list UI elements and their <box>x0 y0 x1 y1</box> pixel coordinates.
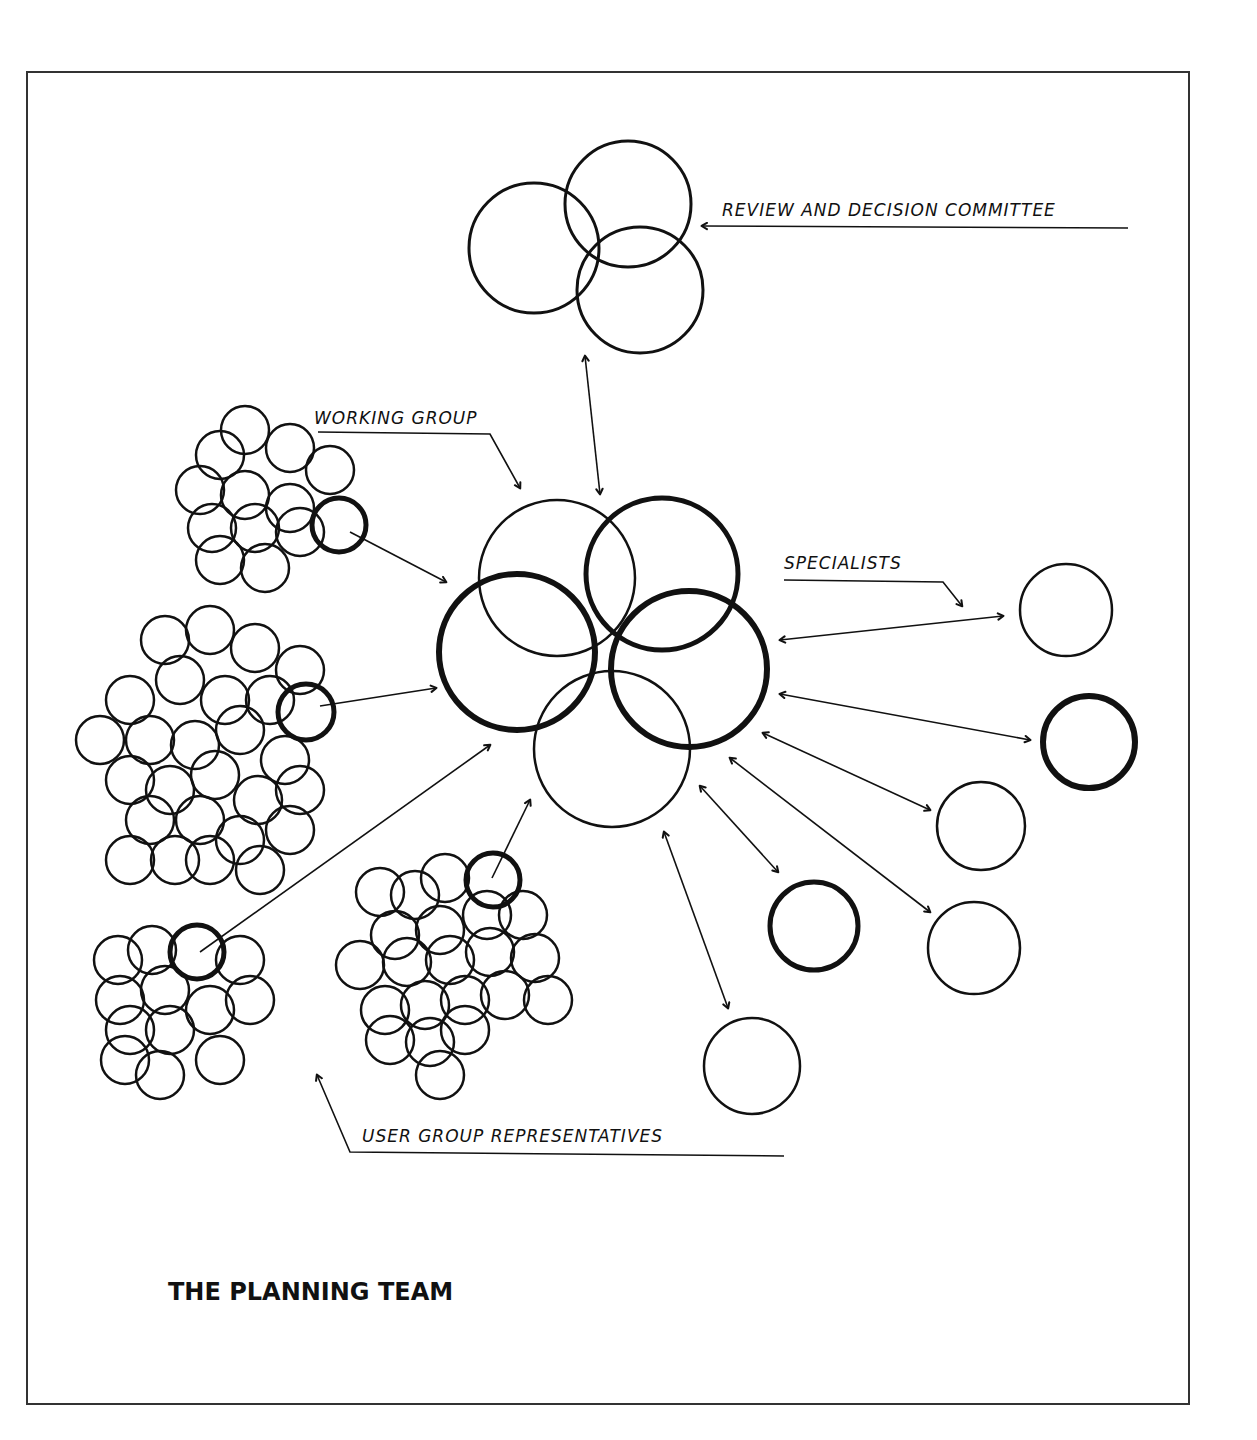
cluster-bl-link-arrow <box>200 745 490 952</box>
user-representative-circle <box>312 498 366 552</box>
label-review-committee: REVIEW AND DECISION COMMITTEE <box>722 200 1056 220</box>
committee-member-circle <box>577 227 703 353</box>
user-circle <box>524 976 572 1024</box>
user-circle <box>196 1036 244 1084</box>
specialist-circle <box>1043 696 1135 788</box>
user-circle <box>261 736 309 784</box>
specialist-circle <box>928 902 1020 994</box>
diagram-canvas <box>0 0 1257 1440</box>
committee-member-circle <box>469 183 599 313</box>
user-circle <box>499 891 547 939</box>
user-circle <box>336 941 384 989</box>
user-representative-circle <box>466 853 520 907</box>
committee-link-arrow <box>585 356 600 494</box>
working-group-circles <box>439 498 767 827</box>
user-group-cluster-bottom-left <box>94 925 274 1099</box>
working-group-member-circle <box>586 498 738 650</box>
working-group-member-circle <box>439 574 595 730</box>
wg-label-pointer-arrow <box>318 432 520 488</box>
specialist-circle <box>704 1018 800 1114</box>
working-group-member-circle <box>534 671 690 827</box>
user-circle <box>231 624 279 672</box>
spec-3-link-arrow <box>763 733 930 810</box>
label-user-group-representatives: USER GROUP REPRESENTATIVES <box>362 1126 663 1146</box>
user-circle <box>441 1006 489 1054</box>
user-circle <box>421 854 469 902</box>
committee-member-circle <box>565 141 691 267</box>
user-group-cluster-bottom-center <box>336 853 572 1099</box>
user-circle <box>201 676 249 724</box>
user-circle <box>383 938 431 986</box>
user-circle <box>371 911 419 959</box>
working-group-member-circle <box>611 591 767 747</box>
label-working-group: WORKING GROUP <box>314 408 478 428</box>
specialist-circle <box>770 882 858 970</box>
spec-4-link-arrow <box>700 786 778 872</box>
spec-2-link-arrow <box>780 694 1030 740</box>
user-circle <box>416 906 464 954</box>
diagram-title: THE PLANNING TEAM <box>168 1278 453 1306</box>
cluster-bc-link-arrow <box>492 800 530 878</box>
spec-5-link-arrow <box>730 758 930 912</box>
user-circle <box>416 1051 464 1099</box>
user-circle <box>156 656 204 704</box>
planning-team-diagram: REVIEW AND DECISION COMMITTEE WORKING GR… <box>0 0 1257 1440</box>
user-group-clusters <box>76 406 572 1099</box>
user-circle <box>196 536 244 584</box>
user-circle <box>76 716 124 764</box>
user-circle <box>186 606 234 654</box>
user-circle <box>221 406 269 454</box>
user-circle <box>241 544 289 592</box>
cluster-tl-link-arrow <box>350 532 446 582</box>
specialist-circle <box>1020 564 1112 656</box>
user-group-cluster-mid-left <box>76 606 334 894</box>
page-frame <box>27 72 1189 1404</box>
cluster-ml-link-arrow <box>320 688 436 706</box>
user-circle <box>106 836 154 884</box>
user-circle <box>306 446 354 494</box>
spec-1-link-arrow <box>780 616 1003 640</box>
user-circle <box>226 976 274 1024</box>
spec-label-pointer-arrow <box>784 580 962 606</box>
user-circle <box>216 706 264 754</box>
user-representative-circle <box>170 925 224 979</box>
label-specialists: SPECIALISTS <box>784 553 902 573</box>
user-circle <box>246 676 294 724</box>
review-committee-circles <box>469 141 703 353</box>
committee-label-pointer-arrow <box>702 226 1128 228</box>
user-circle <box>266 806 314 854</box>
specialist-circles <box>704 564 1135 1114</box>
specialist-circle <box>937 782 1025 870</box>
user-group-cluster-top-left <box>176 406 366 592</box>
spec-6-link-arrow <box>664 832 728 1008</box>
